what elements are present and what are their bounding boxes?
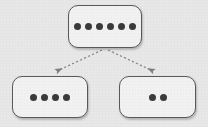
node-dot bbox=[160, 94, 167, 101]
node-dot bbox=[74, 23, 81, 30]
edge-root-to-right bbox=[108, 50, 153, 71]
node-dot bbox=[118, 23, 125, 30]
node-dot bbox=[63, 94, 70, 101]
child-node-right-dots bbox=[149, 94, 167, 101]
parent-node[interactable] bbox=[68, 5, 142, 48]
node-dot bbox=[129, 23, 136, 30]
node-dot bbox=[85, 23, 92, 30]
node-dot bbox=[41, 94, 48, 101]
edge-root-to-left bbox=[57, 50, 102, 71]
child-node-right[interactable] bbox=[119, 76, 196, 118]
child-node-left-dots bbox=[30, 94, 70, 101]
parent-node-dots bbox=[74, 23, 136, 30]
child-node-left[interactable] bbox=[12, 76, 88, 118]
node-dot bbox=[30, 94, 37, 101]
node-dot bbox=[149, 94, 156, 101]
node-dot bbox=[52, 94, 59, 101]
node-dot bbox=[107, 23, 114, 30]
node-dot bbox=[96, 23, 103, 30]
diagram-canvas bbox=[0, 0, 208, 127]
